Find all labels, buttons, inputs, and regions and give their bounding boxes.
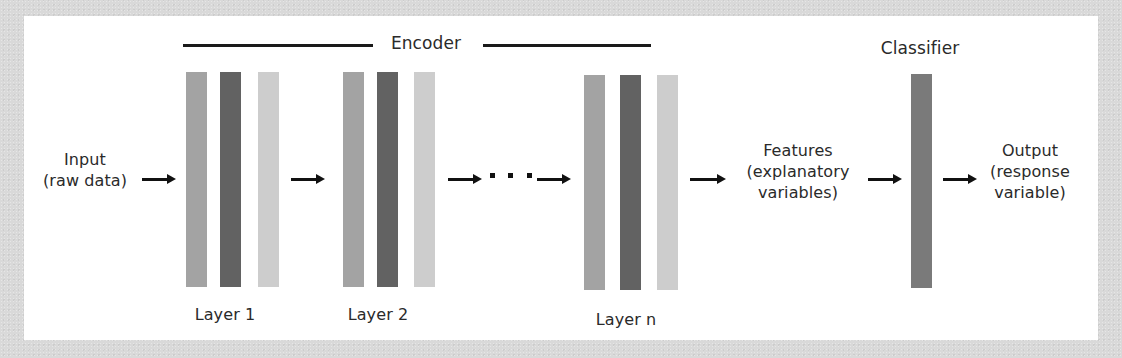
arrow-icon — [448, 174, 482, 184]
layer-2-bar-b — [377, 72, 398, 287]
arrow-icon — [868, 174, 902, 184]
output-label-line2: (response — [982, 161, 1078, 182]
layer-1-bar-c — [258, 72, 279, 287]
layer-2-bar-c — [414, 72, 435, 287]
output-label-line1: Output — [982, 140, 1078, 161]
layer-n-bar-b — [620, 75, 641, 290]
arrow-icon — [537, 174, 571, 184]
layer-1-bar-b — [220, 72, 241, 287]
encoder-bracket-left — [183, 44, 373, 47]
layer-n-bar-a — [584, 75, 605, 290]
layer-n-label: Layer n — [584, 309, 668, 330]
encoder-bracket-right — [483, 44, 651, 47]
features-label: Features (explanatory variables) — [734, 140, 862, 203]
output-label: Output (response variable) — [982, 140, 1078, 203]
arrow-icon — [291, 174, 325, 184]
encoder-title: Encoder — [381, 33, 471, 54]
features-label-line1: Features — [734, 140, 862, 161]
layer-2-bar-a — [343, 72, 364, 287]
features-label-line3: variables) — [734, 182, 862, 203]
output-label-line3: variable) — [982, 182, 1078, 203]
input-label-line2: (raw data) — [30, 170, 140, 191]
layer-n-bar-c — [657, 75, 678, 290]
input-label: Input (raw data) — [30, 149, 140, 191]
classifier-bar — [911, 74, 932, 288]
classifier-title: Classifier — [873, 38, 967, 59]
arrow-icon — [690, 174, 726, 184]
arrow-icon — [142, 174, 176, 184]
layer-1-label: Layer 1 — [183, 304, 267, 325]
input-label-line1: Input — [30, 149, 140, 170]
arrow-icon — [943, 174, 977, 184]
layer-2-label: Layer 2 — [336, 304, 420, 325]
layer-1-bar-a — [186, 72, 207, 287]
features-label-line2: (explanatory — [734, 161, 862, 182]
